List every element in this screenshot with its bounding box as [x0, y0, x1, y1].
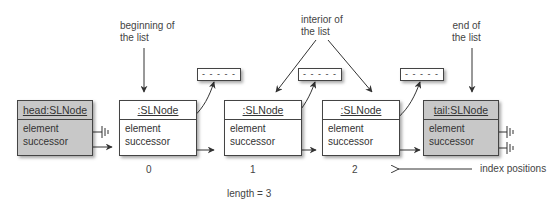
head-node: head:SLNode element successor — [17, 100, 93, 156]
node-title: :SLNode — [323, 101, 399, 120]
element-box: - - - - - — [298, 68, 342, 81]
tail-node: tail:SLNode element successor — [423, 100, 499, 156]
list-node-1: :SLNode element successor — [224, 100, 302, 156]
node-field-successor: successor — [120, 135, 196, 148]
index-positions-label: index positions — [480, 163, 546, 175]
node-title: :SLNode — [120, 101, 196, 120]
index-label-0: 0 — [146, 164, 152, 176]
node-field-element: element — [18, 122, 92, 135]
node-field-successor: successor — [225, 135, 301, 148]
list-node-2: :SLNode element successor — [322, 100, 400, 156]
annotation-line: the list — [452, 32, 481, 44]
index-label-1: 1 — [250, 164, 256, 176]
node-title: :SLNode — [225, 101, 301, 120]
annotation-line: the list — [120, 32, 175, 44]
index-label-2: 2 — [352, 164, 358, 176]
null-ground-icon — [507, 142, 513, 154]
node-title: tail:SLNode — [424, 101, 498, 120]
node-field-element: element — [323, 122, 399, 135]
node-field-element: element — [424, 122, 498, 135]
annotation-line: the list — [301, 26, 343, 38]
node-field-element: element — [225, 122, 301, 135]
node-field-element: element — [120, 122, 196, 135]
element-box: - - - - - — [400, 68, 444, 81]
node-field-successor: successor — [323, 135, 399, 148]
annotation-line: beginning of — [120, 20, 175, 32]
list-node-0: :SLNode element successor — [119, 100, 197, 156]
end-annotation: end of the list — [452, 20, 481, 44]
node-field-successor: successor — [18, 135, 92, 148]
null-ground-icon — [102, 126, 108, 138]
interior-arrow-right — [328, 40, 372, 92]
null-ground-icon — [507, 126, 513, 138]
annotation-line: end of — [452, 20, 481, 32]
length-label: length = 3 — [227, 188, 271, 200]
element-box: - - - - - — [197, 68, 241, 81]
node-title: head:SLNode — [18, 101, 92, 120]
interior-annotation: interior of the list — [301, 14, 343, 38]
interior-arrow-left — [276, 40, 316, 92]
annotation-line: interior of — [301, 14, 343, 26]
node-field-successor: successor — [424, 135, 498, 148]
beginning-annotation: beginning of the list — [120, 20, 175, 44]
